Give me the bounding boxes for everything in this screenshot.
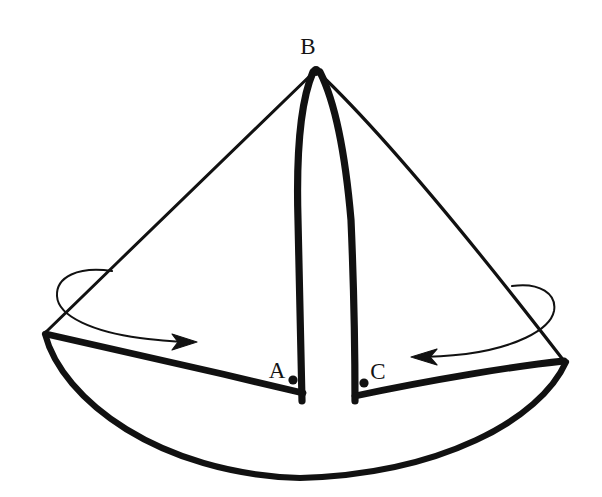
apex-point-dot [311,66,321,76]
slit-label-c: C [370,359,385,384]
apex-label-b: B [300,34,315,59]
right-slit-point-dot [359,378,368,387]
slit-label-a: A [269,358,286,383]
cone-diagram-canvas: B A C [0,0,602,497]
left-slit-point-dot [288,375,297,384]
cone-diagram-svg: B A C [0,0,602,497]
